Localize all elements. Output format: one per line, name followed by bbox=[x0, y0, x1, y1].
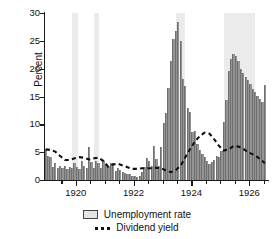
x-tick-major bbox=[191, 181, 192, 186]
x-tick-minor bbox=[220, 181, 221, 184]
x-tick-minor bbox=[264, 181, 265, 184]
plot-area bbox=[44, 13, 268, 180]
legend-label-dividend-yield: Dividend yield bbox=[116, 222, 178, 233]
legend-item-dividend-yield: Dividend yield bbox=[0, 221, 274, 234]
y-tick bbox=[40, 13, 44, 14]
y-tick bbox=[40, 180, 44, 181]
legend-label-unemployment-rate: Unemployment rate bbox=[104, 209, 191, 220]
y-tick bbox=[40, 152, 44, 153]
plot-clip bbox=[44, 13, 268, 180]
x-tick-major bbox=[134, 181, 135, 186]
y-tick-label: 5 bbox=[20, 147, 40, 156]
x-tick-minor bbox=[235, 181, 236, 184]
y-axis-line bbox=[44, 12, 45, 181]
x-tick-minor bbox=[61, 181, 62, 184]
x-tick-minor bbox=[105, 181, 106, 184]
x-tick-major bbox=[76, 181, 77, 186]
legend-swatch-icon bbox=[83, 210, 98, 219]
y-tick-label: 30 bbox=[20, 8, 40, 17]
line-series-dividend-yield bbox=[44, 13, 268, 180]
y-tick-label-wrap: 30 bbox=[0, 8, 40, 18]
x-tick-minor bbox=[119, 181, 120, 184]
y-tick-label-wrap: 10 bbox=[0, 119, 40, 129]
y-tick bbox=[40, 124, 44, 125]
y-tick-label-wrap: 0 bbox=[0, 175, 40, 185]
y-tick-label: 0 bbox=[20, 175, 40, 184]
x-tick-minor bbox=[163, 181, 164, 184]
chart-legend: Unemployment rate Dividend yield bbox=[0, 208, 274, 234]
x-tick-label: 1920 bbox=[56, 187, 96, 198]
x-tick-minor bbox=[206, 181, 207, 184]
y-tick-label: 10 bbox=[20, 119, 40, 128]
x-tick-minor bbox=[148, 181, 149, 184]
y-axis-label: Percent bbox=[33, 30, 44, 110]
x-tick-label: 1924 bbox=[171, 187, 211, 198]
x-tick-label: 1922 bbox=[114, 187, 154, 198]
legend-dashed-line-icon bbox=[95, 223, 110, 232]
chart-figure: 051015202530 1920192219241926 Percent Un… bbox=[0, 0, 274, 239]
x-tick-major bbox=[249, 181, 250, 186]
x-tick-label: 1926 bbox=[229, 187, 269, 198]
dividend-yield-polyline bbox=[46, 133, 265, 173]
y-tick-label-wrap: 5 bbox=[0, 147, 40, 157]
x-tick-minor bbox=[90, 181, 91, 184]
legend-item-unemployment-rate: Unemployment rate bbox=[0, 208, 274, 221]
x-tick-minor bbox=[177, 181, 178, 184]
